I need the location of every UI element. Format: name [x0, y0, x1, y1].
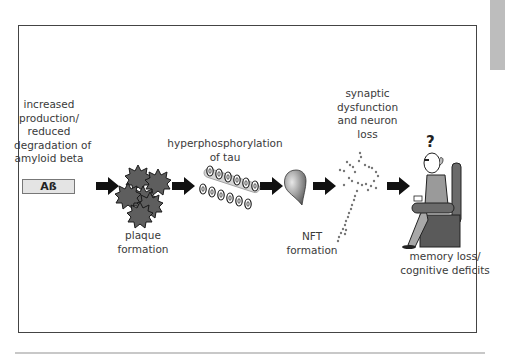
neurofibrillary-tangle-icon	[284, 170, 306, 205]
diagram-artwork	[0, 0, 505, 356]
confused-elderly-man-icon	[402, 153, 461, 249]
right-arrow-icon	[260, 177, 283, 195]
phosphorylated-tau-icon	[200, 166, 261, 209]
right-arrow-icon	[172, 177, 195, 195]
right-arrow-icon	[313, 177, 336, 195]
right-arrow-icon	[387, 177, 410, 195]
degenerating-neuron-icon	[337, 152, 379, 242]
right-arrow-icon	[96, 177, 119, 195]
plaque-cluster-icon	[115, 165, 171, 228]
